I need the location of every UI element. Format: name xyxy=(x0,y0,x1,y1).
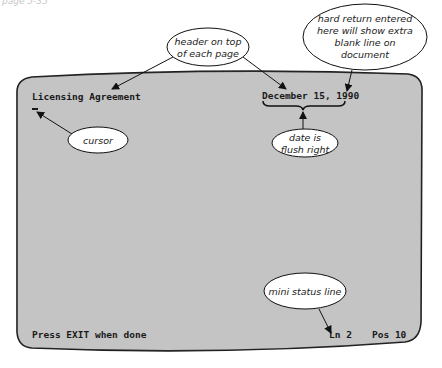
callout-date-flush-right: date is flush right xyxy=(272,129,338,157)
svg-text:blank line on: blank line on xyxy=(334,37,395,48)
status-position: Pos 10 xyxy=(372,329,407,340)
callout-mini-status: mini status line xyxy=(264,273,346,309)
svg-text:mini status line: mini status line xyxy=(269,286,342,297)
svg-text:header on top: header on top xyxy=(175,36,242,47)
callout-header: header on top of each page xyxy=(167,28,249,66)
status-line-number: Ln 2 xyxy=(329,329,352,340)
text-cursor xyxy=(32,108,38,110)
svg-text:cursor: cursor xyxy=(83,135,114,146)
svg-text:hard return entered: hard return entered xyxy=(318,13,413,24)
svg-text:of each page: of each page xyxy=(177,48,239,59)
svg-text:flush right: flush right xyxy=(281,144,331,155)
svg-text:here will show extra: here will show extra xyxy=(317,25,413,36)
monitor-screen xyxy=(17,71,422,351)
annotated-screen: Licensing Agreement December 15, 1990 Pr… xyxy=(0,0,442,368)
header-right-date: December 15, 1990 xyxy=(262,90,360,101)
header-left-text: Licensing Agreement xyxy=(32,91,141,102)
callout-cursor: cursor xyxy=(68,127,128,153)
status-message: Press EXIT when done xyxy=(32,329,147,340)
svg-text:date is: date is xyxy=(289,132,321,143)
callout-hard-return: hard return entered here will show extra… xyxy=(303,4,427,70)
svg-text:document: document xyxy=(341,49,390,60)
